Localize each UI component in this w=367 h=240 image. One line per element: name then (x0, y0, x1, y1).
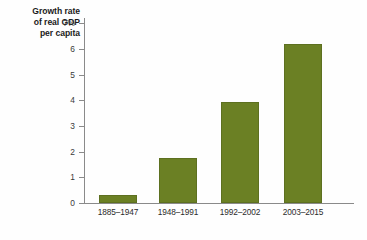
y-tick-label-5: 5 (15, 71, 75, 79)
y-tick-label-7: 7% (15, 19, 75, 27)
y-tick-label-0: 0 (15, 199, 75, 207)
y-tick-label-6: 6 (15, 45, 75, 53)
y-tick-mark-0 (79, 203, 84, 204)
bar-1885-1947 (99, 195, 137, 203)
y-tick-label-2: 2 (15, 148, 75, 156)
y-axis-title-line-3: per capita (6, 28, 80, 39)
x-tick-label-2003-2015: 2003–2015 (263, 208, 343, 217)
y-tick-mark-2 (79, 152, 84, 153)
x-axis-line (84, 203, 354, 204)
y-tick-label-3: 3 (15, 122, 75, 130)
y-tick-mark-6 (79, 49, 84, 50)
y-axis-title-line-1: Growth rate (6, 6, 80, 17)
y-tick-label-1: 1 (15, 173, 75, 181)
bar-1992-2002 (221, 102, 259, 203)
bar-chart-figure: Growth rate of real GDP per capita 7% 6 … (0, 0, 367, 240)
y-tick-mark-1 (79, 177, 84, 178)
bar-2003-2015 (284, 44, 322, 203)
y-tick-label-4: 4 (15, 96, 75, 104)
bar-1948-1991 (159, 158, 197, 203)
y-tick-mark-7 (79, 23, 84, 24)
y-axis-line (84, 18, 85, 204)
y-tick-mark-3 (79, 126, 84, 127)
y-tick-mark-5 (79, 75, 84, 76)
y-tick-mark-4 (79, 100, 84, 101)
